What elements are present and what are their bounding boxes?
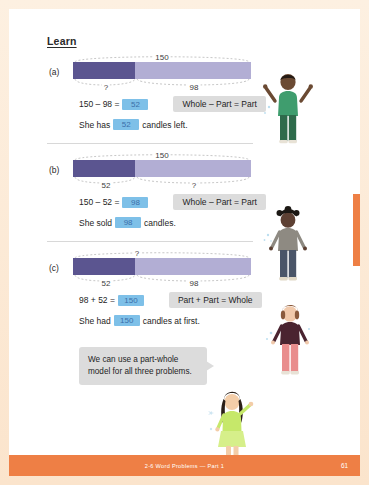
rule-box-c: Part + Part = Whole [169, 292, 262, 308]
bar-segment-part-known [135, 62, 251, 79]
illustration-girl-standing [263, 299, 317, 379]
bar-c [73, 258, 251, 275]
answer-box-a[interactable]: 52 [122, 99, 148, 110]
equation-expression-a: 150 – 98 = [79, 99, 119, 109]
answer-box-b[interactable]: 98 [122, 197, 148, 208]
sentence-prefix-b: She sold [79, 218, 112, 228]
page-root: Learn (a) 150 ? 98 [0, 0, 369, 485]
page-footer: 2-6 Word Problems — Part 1 61 [9, 455, 360, 476]
divider-2 [47, 241, 253, 242]
bar-label-total-c: ? [133, 249, 141, 258]
section-heading-learn: Learn [47, 35, 77, 47]
bar-label-right-b: ? [190, 181, 198, 190]
callout-line-1: We can use a part-whole [88, 354, 198, 366]
bar-segment-part-known2-c [135, 258, 251, 275]
divider-1 [47, 143, 253, 144]
bar-segment-part-unknown-b [135, 160, 251, 177]
equation-expression-c: 98 + 52 = [79, 295, 115, 305]
equation-expression-b: 150 – 52 = [79, 197, 119, 207]
sentence-suffix-a: candles left. [142, 120, 187, 130]
sentence-answer-box-c[interactable]: 150 [114, 315, 140, 326]
sentence-prefix-a: She has [79, 120, 110, 130]
problem-label-a: (a) [49, 67, 59, 77]
bar-label-left-c: 52 [100, 279, 113, 288]
problem-label-c: (c) [49, 263, 59, 273]
footer-lesson-title: 2-6 Word Problems — Part 1 [9, 463, 360, 469]
bar-label-total-b: 150 [153, 151, 170, 160]
sentence-suffix-b: candles. [144, 218, 176, 228]
sentence-prefix-c: She had [79, 316, 111, 326]
footer-page-number: 61 [341, 462, 348, 469]
bar-label-left-a: ? [102, 83, 110, 92]
rule-box-a: Whole – Part = Part [173, 96, 265, 112]
sentence-answer-box-a[interactable]: 52 [113, 119, 139, 130]
illustration-boy-standing [261, 205, 315, 285]
bar-segment-part-known-b [73, 160, 135, 177]
bar-a [73, 62, 251, 79]
callout-line-2: model for all three problems. [88, 366, 198, 378]
bar-label-right-a: 98 [188, 83, 201, 92]
bar-model-b: (b) 150 52 ? [49, 151, 342, 191]
bar-label-left-b: 52 [100, 181, 113, 190]
problem-label-b: (b) [49, 165, 59, 175]
bar-segment-part-known-c [73, 258, 135, 275]
callout-bubble-wrap: We can use a part-whole model for all th… [79, 347, 207, 385]
bar-b [73, 160, 251, 177]
rule-box-b: Whole – Part = Part [173, 194, 265, 210]
bar-label-total-a: 150 [153, 53, 170, 62]
worksheet-page: Learn (a) 150 ? 98 [9, 9, 360, 476]
bar-segment-part-unknown [73, 62, 135, 79]
sentence-answer-box-b[interactable]: 98 [115, 217, 141, 228]
sentence-suffix-c: candles at first. [143, 316, 200, 326]
answer-box-c[interactable]: 150 [118, 295, 144, 306]
callout-bubble: We can use a part-whole model for all th… [79, 347, 207, 385]
illustration-boy-cheering [261, 67, 315, 147]
bar-label-right-c: 98 [188, 279, 201, 288]
